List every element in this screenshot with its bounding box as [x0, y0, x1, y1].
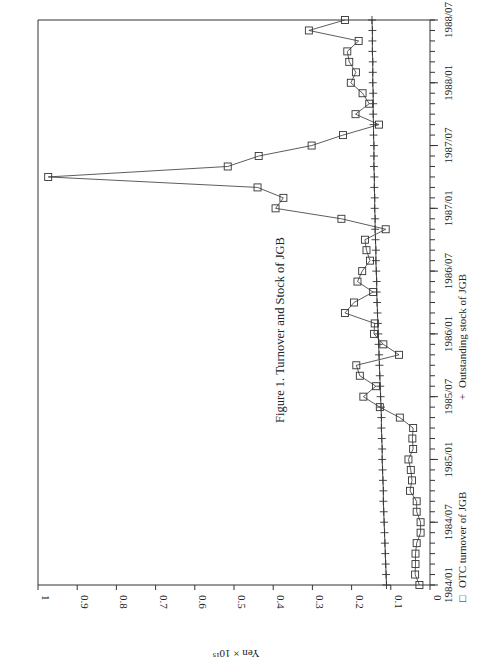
- stock-point: [369, 79, 377, 87]
- stock-point: [380, 508, 388, 516]
- time-tick-label: 1987/07: [442, 127, 454, 164]
- value-tick-label: 0.7: [158, 595, 170, 609]
- stock-point: [377, 403, 385, 411]
- stock-point: [373, 309, 381, 317]
- value-tick-label: 0.2: [354, 595, 366, 609]
- value-axis-label: Yen × 10¹⁵: [212, 648, 259, 660]
- stock-point: [371, 194, 379, 202]
- value-tick-label: 0.4: [275, 595, 287, 609]
- stock-point: [378, 445, 386, 453]
- stock-point: [369, 110, 377, 118]
- stock-point: [377, 393, 385, 401]
- stock-point: [381, 550, 389, 558]
- stock-point: [370, 152, 378, 160]
- stock-point: [382, 560, 390, 568]
- stock-point: [370, 183, 378, 191]
- stock-point: [378, 435, 386, 443]
- series-otc-turnover: [45, 17, 424, 589]
- time-tick-label: 1984/07: [442, 504, 454, 541]
- time-axis: 1984/011984/071985/011985/071986/011986/…: [430, 1, 454, 603]
- value-tick-label: 0.6: [197, 595, 209, 609]
- legend: □ OTC turnover of JGB + Outstanding stoc…: [456, 274, 468, 602]
- stock-point: [368, 16, 376, 24]
- stock-point: [373, 299, 381, 307]
- value-tick-label: 0.1: [393, 595, 405, 609]
- time-tick-label: 1988/01: [442, 65, 454, 101]
- time-tick-label: 1985/01: [442, 441, 454, 477]
- value-axis: 00.10.20.30.40.50.60.70.80.91: [38, 585, 444, 609]
- legend-turnover-symbol: □: [456, 595, 468, 602]
- time-tick-label: 1987/01: [442, 190, 454, 226]
- stock-point: [373, 278, 381, 286]
- time-tick-label: 1986/01: [442, 316, 454, 352]
- time-tick-label: 1986/07: [442, 253, 454, 290]
- plot-frame: [38, 20, 430, 585]
- stock-point: [369, 58, 377, 66]
- stock-point: [377, 424, 385, 432]
- stock-point: [370, 131, 378, 139]
- stock-point: [372, 236, 380, 244]
- stock-point: [381, 539, 389, 547]
- legend-stock-label: Outstanding stock of JGB: [456, 274, 468, 388]
- value-tick-label: 0.9: [79, 595, 91, 609]
- stock-point: [377, 414, 385, 422]
- stock-point: [369, 89, 377, 97]
- stock-point: [370, 162, 378, 170]
- stock-point: [379, 466, 387, 474]
- stock-point: [375, 361, 383, 369]
- stock-point: [376, 372, 384, 380]
- stock-point: [376, 382, 384, 390]
- time-tick-label: 1985/07: [442, 378, 454, 415]
- time-tick-label: 1984/01: [442, 567, 454, 603]
- stock-point: [379, 476, 387, 484]
- chart: 00.10.20.30.40.50.60.70.80.91 1984/01198…: [0, 0, 490, 665]
- stock-point: [370, 173, 378, 181]
- legend-turnover-label: OTC turnover of JGB: [456, 492, 468, 588]
- time-tick-label: 1988/07: [442, 1, 454, 38]
- stock-point: [379, 487, 387, 495]
- stock-point: [382, 571, 390, 579]
- stock-point: [375, 340, 383, 348]
- stock-point: [381, 529, 389, 537]
- value-tick-label: 0.8: [118, 595, 130, 609]
- series-outstanding-stock: [368, 16, 391, 589]
- stock-point: [371, 204, 379, 212]
- value-tick-label: 0.5: [236, 595, 248, 609]
- stock-point: [374, 330, 382, 338]
- stock-point: [370, 142, 378, 150]
- stock-point: [372, 246, 380, 254]
- stock-point: [372, 267, 380, 275]
- chart-title: Figure 1. Turnover and Stock of JGB: [273, 237, 287, 423]
- value-tick-label: 1: [40, 595, 52, 601]
- legend-stock-symbol: +: [456, 394, 468, 400]
- stock-point: [369, 68, 377, 76]
- stock-point: [378, 455, 386, 463]
- stock-point: [368, 26, 376, 34]
- stock-point: [371, 215, 379, 223]
- stock-point: [380, 518, 388, 526]
- stock-point: [368, 37, 376, 45]
- stock-point: [379, 497, 387, 505]
- stock-point: [375, 351, 383, 359]
- stock-point: [368, 47, 376, 55]
- value-tick-label: 0.3: [314, 595, 326, 609]
- stock-point: [382, 581, 390, 589]
